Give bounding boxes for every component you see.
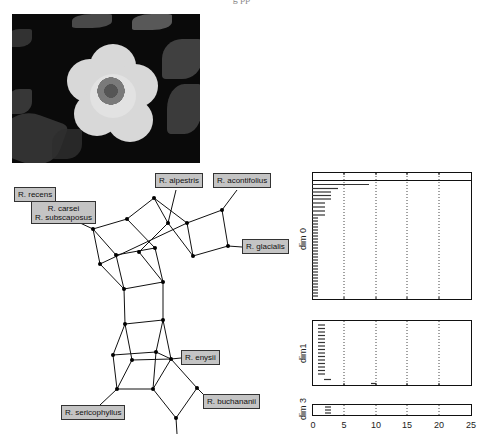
x-tick-25: 25 — [466, 420, 476, 430]
dim1-panel-frame — [313, 321, 472, 386]
dimension-bar-chart — [0, 0, 483, 434]
x-tick-10: 10 — [371, 420, 381, 430]
dim0-bars — [312, 185, 369, 297]
dim3-bars — [325, 407, 331, 413]
x-tick-20: 20 — [434, 420, 444, 430]
x-tick-15: 15 — [402, 420, 412, 430]
x-tick-0: 0 — [310, 420, 315, 430]
dim3-panel-frame — [313, 405, 472, 416]
dim0-panel-frame — [313, 173, 472, 300]
y-label-dim3: dim 3 — [298, 398, 308, 420]
y-label-dim0: dim 0 — [298, 228, 308, 250]
x-tick-5: 5 — [341, 420, 346, 430]
dim1-bars — [318, 325, 376, 384]
y-label-dim1: dim1 — [298, 343, 308, 363]
